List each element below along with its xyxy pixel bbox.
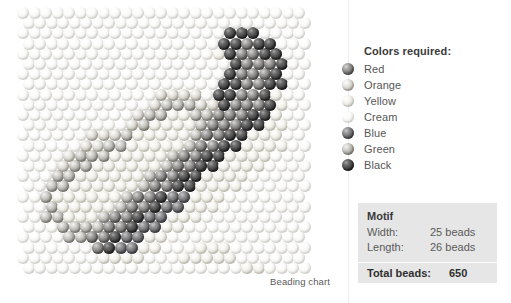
- bead-cream: [207, 262, 219, 274]
- bead-cream: [184, 17, 196, 29]
- bead-cream: [230, 242, 242, 254]
- bead-red: [138, 201, 150, 213]
- bead-cream: [86, 89, 98, 101]
- bead-red: [121, 211, 133, 223]
- bead-yellow: [213, 191, 225, 203]
- bead-cream: [282, 150, 294, 162]
- beading-chart-panel: Beading chart: [0, 0, 348, 303]
- bead-green: [69, 221, 81, 233]
- legend-label-red: Red: [364, 61, 384, 77]
- bead-green: [138, 119, 150, 131]
- bead-cream: [40, 48, 52, 60]
- bead-yellow: [103, 201, 115, 213]
- bead-yellow: [57, 201, 69, 213]
- bead-yellow: [86, 191, 98, 203]
- bead-cream: [167, 231, 179, 243]
- bead-cream: [34, 99, 46, 111]
- bead-yellow: [98, 191, 110, 203]
- bead-yellow: [86, 211, 98, 223]
- bead-cream: [190, 27, 202, 39]
- bead-cream: [52, 150, 64, 162]
- bead-yellow: [167, 129, 179, 141]
- bead-cream: [299, 38, 311, 50]
- motif-length-row: Length: 26 beads: [367, 240, 488, 255]
- legend-item-yellow: Yellow: [341, 93, 511, 109]
- bead-orange: [149, 99, 161, 111]
- bead-blue: [172, 201, 184, 213]
- bead-green: [161, 99, 173, 111]
- bead-cream: [29, 27, 41, 39]
- bead-black: [201, 150, 213, 162]
- bead-cream: [299, 78, 311, 90]
- bead-yellow: [161, 221, 173, 233]
- bead-cream: [63, 89, 75, 101]
- bead-yellow: [167, 109, 179, 121]
- bead-cream: [155, 7, 167, 19]
- bead-cream: [98, 7, 110, 19]
- bead-green: [144, 109, 156, 121]
- bead-cream: [287, 201, 299, 213]
- bead-red: [190, 150, 202, 162]
- bead-orange: [132, 109, 144, 121]
- bead-cream: [69, 99, 81, 111]
- bead-blue: [178, 191, 190, 203]
- bead-cream: [75, 89, 87, 101]
- bead-green: [75, 231, 87, 243]
- bead-cream: [23, 119, 35, 131]
- bead-red: [224, 109, 236, 121]
- bead-cream: [190, 231, 202, 243]
- bead-cream: [299, 140, 311, 152]
- bead-black: [247, 109, 259, 121]
- bead-cream: [132, 48, 144, 60]
- bead-yellow: [276, 119, 288, 131]
- bead-yellow: [207, 201, 219, 213]
- bead-cream: [109, 48, 121, 60]
- bead-yellow: [144, 150, 156, 162]
- bead-cream: [138, 17, 150, 29]
- bead-cream: [282, 109, 294, 121]
- bead-cream: [282, 7, 294, 19]
- bead-cream: [46, 119, 58, 131]
- bead-cream: [218, 201, 230, 213]
- bead-blue: [138, 221, 150, 233]
- bead-green: [201, 109, 213, 121]
- bead-cream: [184, 221, 196, 233]
- bead-cream: [69, 38, 81, 50]
- bead-green: [190, 109, 202, 121]
- bead-blue: [126, 242, 138, 254]
- bead-cream: [17, 89, 29, 101]
- bead-cream: [264, 262, 276, 274]
- bead-yellow: [126, 140, 138, 152]
- bead-yellow: [132, 252, 144, 264]
- bead-cream: [259, 27, 271, 39]
- bead-red: [253, 58, 265, 70]
- bead-cream: [293, 211, 305, 223]
- bead-cream: [98, 109, 110, 121]
- bead-green: [69, 160, 81, 172]
- bead-cream: [287, 140, 299, 152]
- bead-cream: [270, 211, 282, 223]
- bead-cream: [115, 58, 127, 70]
- legend-item-red: Red: [341, 61, 511, 77]
- bead-black: [230, 58, 242, 70]
- bead-cream: [207, 221, 219, 233]
- bead-cream: [57, 99, 69, 111]
- bead-cream: [109, 7, 121, 19]
- bead-cream: [80, 38, 92, 50]
- bead-blue: [167, 191, 179, 203]
- bead-cream: [270, 252, 282, 264]
- bead-black: [207, 160, 219, 172]
- bead-cream: [167, 252, 179, 264]
- bead-yellow: [109, 191, 121, 203]
- bead-cream: [98, 89, 110, 101]
- bead-yellow: [190, 211, 202, 223]
- bead-cream: [23, 140, 35, 152]
- bead-cream: [92, 17, 104, 29]
- bead-cream: [161, 262, 173, 274]
- bead-black: [236, 129, 248, 141]
- bead-yellow: [138, 160, 150, 172]
- bead-cream: [293, 109, 305, 121]
- bead-cream: [270, 191, 282, 203]
- bead-yellow: [259, 129, 271, 141]
- bead-cream: [115, 99, 127, 111]
